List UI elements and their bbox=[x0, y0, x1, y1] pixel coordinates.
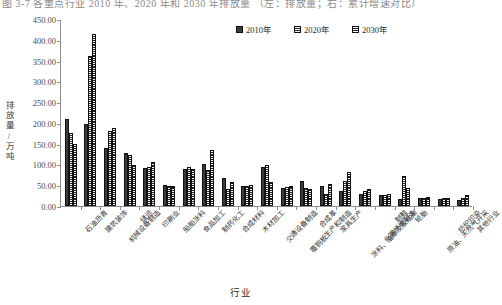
y-tick-mark bbox=[57, 186, 61, 187]
bar-group bbox=[238, 20, 258, 206]
bar bbox=[347, 172, 351, 206]
x-axis-title: 行业 bbox=[0, 285, 482, 299]
bar bbox=[328, 184, 332, 206]
bar bbox=[269, 182, 273, 206]
bar-group bbox=[159, 20, 179, 206]
y-tick-label: 100.00 bbox=[33, 160, 56, 170]
legend-label: 2030年 bbox=[362, 23, 388, 35]
bar-group bbox=[81, 20, 101, 206]
bar bbox=[289, 186, 293, 206]
figure-caption-clipped: 图 3-7 各重点行业 2010 年、2020 年和 2030 年排放量 （左：… bbox=[0, 0, 482, 9]
y-tick-label: 350.00 bbox=[33, 57, 56, 67]
bar bbox=[387, 194, 391, 206]
bar-group bbox=[257, 20, 277, 206]
bar bbox=[465, 195, 469, 206]
bar bbox=[426, 197, 430, 206]
bar-group bbox=[355, 20, 375, 206]
y-tick-label: 0.00 bbox=[41, 202, 56, 212]
bar bbox=[171, 186, 175, 206]
y-tick-mark bbox=[57, 20, 61, 21]
y-tick-label: 150.00 bbox=[33, 140, 56, 150]
bar-group bbox=[198, 20, 218, 206]
legend-swatch-icon bbox=[352, 26, 359, 33]
y-tick-mark bbox=[57, 82, 61, 83]
y-tick-label: 250.00 bbox=[33, 98, 56, 108]
figure-caption-text: 图 3-7 各重点行业 2010 年、2020 年和 2030 年排放量 （左：… bbox=[2, 0, 422, 9]
y-tick-mark bbox=[57, 145, 61, 146]
bar bbox=[446, 198, 450, 206]
bar bbox=[112, 128, 116, 206]
legend-swatch-icon bbox=[294, 26, 301, 33]
bar bbox=[406, 188, 410, 206]
bar-groups bbox=[61, 20, 472, 206]
bar-group bbox=[375, 20, 395, 206]
bar bbox=[73, 144, 77, 206]
legend-item[interactable]: 2030年 bbox=[352, 23, 388, 35]
bar bbox=[230, 182, 234, 206]
bar bbox=[249, 185, 253, 206]
y-tick-label: 300.00 bbox=[33, 77, 56, 87]
bar-group bbox=[139, 20, 159, 206]
y-tick-label: 200.00 bbox=[33, 119, 56, 129]
bar-group bbox=[179, 20, 199, 206]
y-tick-mark bbox=[57, 41, 61, 42]
bar-group bbox=[296, 20, 316, 206]
y-axis-tick-labels: 0.0050.00100.00150.00200.00250.00300.003… bbox=[14, 20, 60, 207]
legend-label: 2010年 bbox=[246, 23, 272, 35]
bar-group bbox=[120, 20, 140, 206]
x-tick-mark bbox=[473, 206, 474, 210]
x-axis-tick-labels: 石油沥青建筑装饰机械设备制造储运印刷业船舶涂料食品加工制药化工合成材料木材加工交… bbox=[60, 209, 472, 281]
bar-group bbox=[218, 20, 238, 206]
legend-label: 2020年 bbox=[304, 23, 330, 35]
bar-group bbox=[277, 20, 297, 206]
bar bbox=[151, 162, 155, 206]
y-tick-label: 450.00 bbox=[33, 15, 56, 25]
legend-item[interactable]: 2010年 bbox=[236, 23, 272, 35]
x-category-label: 交通设备制造 bbox=[285, 209, 320, 244]
bar-group bbox=[100, 20, 120, 206]
bar-group bbox=[434, 20, 454, 206]
y-tick-mark bbox=[57, 103, 61, 104]
y-tick-mark bbox=[57, 62, 61, 63]
bar bbox=[210, 150, 214, 206]
y-tick-mark bbox=[57, 165, 61, 166]
bar-group bbox=[395, 20, 415, 206]
bar-group bbox=[61, 20, 81, 206]
bar bbox=[132, 165, 136, 206]
chart-legend: 2010年2020年2030年 bbox=[236, 23, 388, 35]
legend-swatch-icon bbox=[236, 26, 243, 33]
bar bbox=[92, 34, 96, 206]
y-tick-label: 50.00 bbox=[37, 181, 56, 191]
bar-group bbox=[453, 20, 473, 206]
y-tick-mark bbox=[57, 207, 61, 208]
bar-group bbox=[316, 20, 336, 206]
y-axis-title: 排放量/万吨 bbox=[2, 101, 14, 162]
bar-group bbox=[336, 20, 356, 206]
x-category-label: 印刷业 bbox=[161, 209, 182, 230]
y-tick-label: 400.00 bbox=[33, 36, 56, 46]
bar-chart: 排放量/万吨 0.0050.00100.00150.00200.00250.00… bbox=[0, 9, 482, 305]
bar bbox=[191, 169, 195, 206]
y-tick-mark bbox=[57, 124, 61, 125]
bar-group bbox=[414, 20, 434, 206]
legend-item[interactable]: 2020年 bbox=[294, 23, 330, 35]
bar bbox=[308, 189, 312, 206]
plot-area bbox=[60, 20, 472, 207]
bar bbox=[367, 189, 371, 206]
